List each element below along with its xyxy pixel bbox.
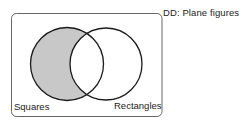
set-label-squares: Squares bbox=[14, 101, 49, 112]
rectangles-circle bbox=[70, 28, 142, 100]
set-label-rectangles: Rectangles bbox=[114, 100, 162, 111]
diagram-title: DD: Plane figures bbox=[163, 7, 239, 18]
